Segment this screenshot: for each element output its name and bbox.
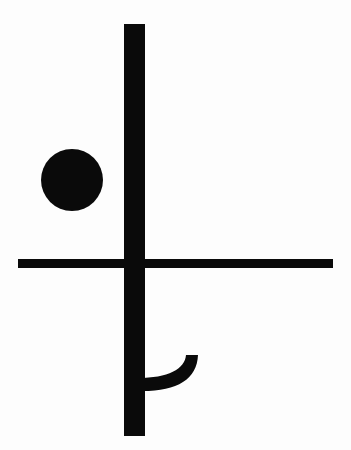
vertical-stroke [124,24,145,436]
glyph-figure [0,0,351,450]
figure-canvas [0,0,351,450]
horizontal-stroke [18,259,333,268]
filled-disc [41,149,103,211]
